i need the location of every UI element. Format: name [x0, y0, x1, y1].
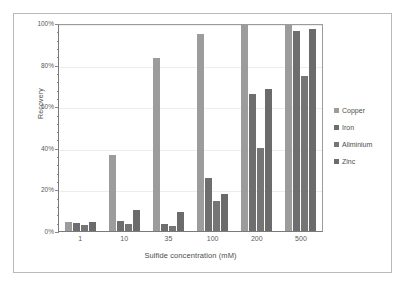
x-axis-title: Sulfide concentration (mM)	[58, 251, 323, 260]
legend-label: Iron	[342, 124, 354, 131]
bar	[65, 222, 72, 231]
legend-label: Copper	[342, 107, 365, 114]
legend-label: Aliminium	[342, 141, 372, 148]
bar	[109, 155, 116, 231]
chart-legend: CopperIronAliminiumZinc	[334, 106, 392, 174]
bar	[213, 201, 220, 231]
y-axis-tick-label: 40%	[28, 146, 54, 153]
legend-item[interactable]: Aliminium	[334, 140, 392, 148]
bar	[301, 76, 308, 231]
bar-group	[278, 25, 322, 231]
bar	[265, 89, 272, 231]
bar	[153, 58, 160, 231]
bar	[309, 29, 316, 231]
bar	[89, 222, 96, 231]
y-axis-tick-label: 80%	[28, 63, 54, 70]
bar	[197, 34, 204, 231]
x-axis-tick-label: 500	[279, 235, 323, 242]
x-axis-tick-label: 100	[191, 235, 235, 242]
bar	[117, 221, 124, 231]
bar	[249, 94, 256, 231]
bar	[161, 224, 168, 231]
bar	[177, 212, 184, 231]
bar	[257, 148, 264, 231]
legend-swatch-icon	[334, 125, 339, 130]
bar	[285, 24, 292, 231]
legend-item[interactable]: Copper	[334, 106, 392, 114]
bar	[125, 224, 132, 231]
y-axis-tick-label: 20%	[28, 187, 54, 194]
y-axis-tick-labels: 0%20%40%60%80%100%	[24, 14, 54, 272]
bar-group	[147, 25, 191, 231]
bar	[169, 226, 176, 231]
bar	[221, 194, 228, 231]
bar	[81, 225, 88, 231]
y-axis-tick-label: 60%	[28, 104, 54, 111]
x-axis-tick-label: 35	[146, 235, 190, 242]
bar-groups	[59, 25, 322, 231]
bar-group	[103, 25, 147, 231]
legend-label: Zinc	[342, 158, 355, 165]
bar-group	[234, 25, 278, 231]
bar-group	[190, 25, 234, 231]
figure-frame: Recovery 0%20%40%60%80%100% 110351002005…	[13, 13, 392, 273]
x-axis-tick-labels: 11035100200500	[58, 235, 323, 242]
legend-swatch-icon	[334, 142, 339, 147]
legend-swatch-icon	[334, 159, 339, 164]
x-axis-tick-label: 10	[102, 235, 146, 242]
bar	[73, 223, 80, 231]
bar-chart: Recovery 0%20%40%60%80%100% 110351002005…	[14, 14, 391, 272]
y-axis-major-tick	[55, 232, 59, 233]
plot-area	[58, 24, 323, 232]
x-axis-tick-label: 200	[235, 235, 279, 242]
legend-item[interactable]: Iron	[334, 123, 392, 131]
y-axis-tick-label: 0%	[28, 229, 54, 236]
legend-swatch-icon	[334, 108, 339, 113]
bar	[293, 31, 300, 231]
bar	[241, 25, 248, 231]
bar-group	[59, 25, 103, 231]
y-axis-tick-label: 100%	[28, 21, 54, 28]
legend-item[interactable]: Zinc	[334, 157, 392, 165]
x-axis-tick-label: 1	[58, 235, 102, 242]
bar	[133, 210, 140, 231]
bar	[205, 178, 212, 231]
